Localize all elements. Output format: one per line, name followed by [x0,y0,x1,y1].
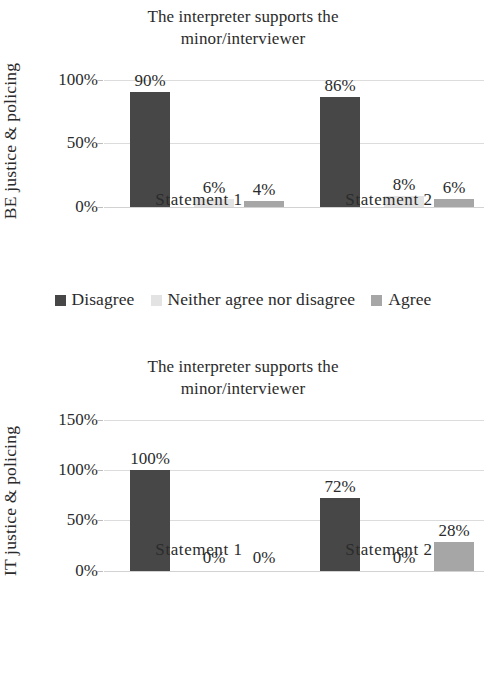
legend-be: DisagreeNeither agree nor disagreeAgree [0,289,486,310]
square-swatch-icon [151,295,162,306]
chart-title-line-1: The interpreter supports the [60,356,426,378]
bar-group: 72%0%28% [294,400,484,600]
x-axis-category-label: Statement 2 [345,540,432,560]
y-axis-tick-label: 0% [34,561,98,581]
legend-item[interactable]: Disagree [55,289,135,310]
square-swatch-icon [371,295,382,306]
bar-value-label: 100% [130,450,170,467]
y-axis-tick-label: 100% [34,70,98,90]
square-swatch-icon [55,295,66,306]
chart-title-line-2: minor/interviewer [60,378,426,400]
y-axis-tick-label: 0% [34,197,98,217]
chart-title-line-1: The interpreter supports the [60,6,426,28]
bar-value-label: 90% [134,72,165,89]
bar-value-label: 86% [324,77,355,94]
y-axis-tickmark [97,420,103,421]
bar-value-label: 72% [324,478,355,495]
y-axis-tickmark [97,470,103,471]
plot-canvas-it: 100%0%0%72%0%28% [104,400,484,600]
x-axis-category-label: Statement 1 [155,540,242,560]
x-axis-category-label: Statement 2 [345,190,432,210]
legend-item-label: Disagree [72,289,135,310]
legend-item[interactable]: Neither agree nor disagree [151,289,356,310]
chart-title-it: The interpreter supports the minor/inter… [0,340,486,400]
y-axis-label-it: IT justice & policing [0,406,26,596]
chart-be-justice-policing: The interpreter supports the minor/inter… [0,0,486,340]
bar-group: 100%0%0% [104,400,294,600]
legend-item[interactable]: Agree [371,289,431,310]
chart-it-justice-policing: The interpreter supports the minor/inter… [0,340,486,675]
y-axis-tickmark [97,143,103,144]
y-axis-tickmark [97,207,103,208]
legend-item-label: Neither agree nor disagree [168,289,356,310]
x-axis-categories-be: Statement 1Statement 2 [104,190,484,216]
bar-value-label: 28% [438,522,469,539]
y-axis-tick-label: 100% [34,460,98,480]
y-axis-tickmark [97,571,103,572]
y-axis-tickmark [97,520,103,521]
y-axis-tick-labels-it: 0%50%100%150% [26,400,98,600]
y-axis-tick-label: 50% [34,510,98,530]
x-axis-category-label: Statement 1 [155,190,242,210]
x-axis-categories-it: Statement 1Statement 2 [104,540,484,566]
chart-title-line-2: minor/interviewer [60,28,426,50]
plot-area-it: IT justice & policing 0%50%100%150% 100%… [0,400,486,600]
legend-item-label: Agree [388,289,431,310]
y-axis-label-be: BE justice & policing [0,46,26,236]
chart-title-be: The interpreter supports the minor/inter… [0,0,486,50]
y-axis-tick-labels-be: 0%50%100% [26,50,98,240]
y-axis-tick-label: 50% [34,133,98,153]
y-axis-tickmark [97,80,103,81]
y-axis-tick-label: 150% [34,410,98,430]
